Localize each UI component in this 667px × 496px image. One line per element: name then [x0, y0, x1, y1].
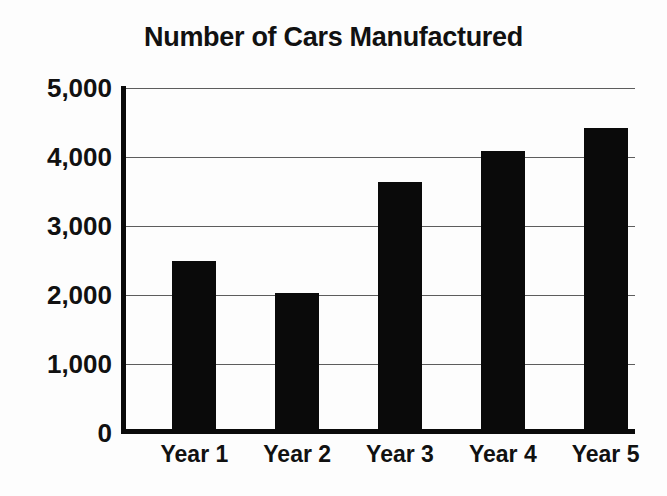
bar [378, 182, 422, 433]
gridline [121, 157, 635, 158]
y-axis-tick-label: 0 [0, 420, 112, 446]
bar [481, 151, 525, 433]
y-axis-line [121, 86, 126, 434]
bar [584, 128, 628, 433]
y-axis-tick-label: 1,000 [0, 351, 112, 377]
y-axis-tick-label: 4,000 [0, 144, 112, 170]
y-axis-tick-label: 3,000 [0, 213, 112, 239]
bar-chart: Number of Cars Manufactured 01,0002,0003… [0, 0, 667, 496]
bar [275, 293, 319, 433]
bar [172, 261, 216, 434]
chart-title: Number of Cars Manufactured [0, 22, 667, 53]
y-axis-tick-label: 2,000 [0, 282, 112, 308]
gridline [121, 88, 635, 89]
x-axis-line [121, 429, 635, 434]
x-axis-tick-label: Year 5 [546, 443, 666, 466]
plot-area [121, 88, 635, 433]
y-axis-tick-label: 5,000 [0, 75, 112, 101]
